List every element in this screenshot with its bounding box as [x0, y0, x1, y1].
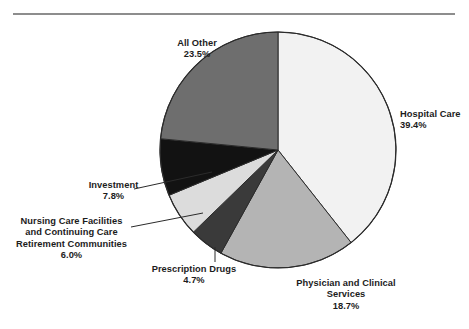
slice-label-name: All Other	[145, 38, 249, 49]
slice-label-name-line2: and Continuing Care	[6, 227, 137, 238]
slice-label-percent: 18.7%	[287, 301, 405, 312]
slice-label-percent: 7.8%	[60, 191, 167, 202]
pie-chart-figure: Hospital Care 39.4% Physician and Clinic…	[0, 0, 469, 329]
slice-label-percent: 6.0%	[6, 250, 137, 261]
slice-label-percent: 23.5%	[145, 49, 249, 60]
slice-label-name-line3: Retirement Communities	[6, 239, 137, 250]
slice-label-name: Prescription Drugs	[140, 264, 248, 275]
slice-label-name-line2: Services	[287, 289, 405, 300]
slice-label-percent: 39.4%	[400, 120, 461, 131]
slice-label-name: Hospital Care	[400, 109, 461, 120]
slice-label-investment: Investment 7.8%	[60, 180, 167, 203]
slice-label-physician-and-clinical-services: Physician and Clinical Services 18.7%	[287, 278, 405, 312]
slice-label-name-line1: Nursing Care Facilities	[6, 216, 137, 227]
slice-label-nursing-care-facilities: Nursing Care Facilities and Continuing C…	[6, 216, 137, 262]
slice-label-prescription-drugs: Prescription Drugs 4.7%	[140, 264, 248, 287]
slice-label-hospital-care: Hospital Care 39.4%	[400, 109, 461, 132]
slice-label-percent: 4.7%	[140, 275, 248, 286]
slice-label-name-line1: Physician and Clinical	[287, 278, 405, 289]
slice-label-name: Investment	[60, 180, 167, 191]
pie-slice-group	[160, 32, 396, 268]
slice-label-all-other: All Other 23.5%	[145, 38, 249, 61]
